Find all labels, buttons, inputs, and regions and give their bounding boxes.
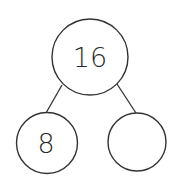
whole-value: 16	[73, 42, 107, 73]
connector-right	[117, 84, 136, 113]
connector-left	[46, 85, 62, 113]
whole-node: 16	[52, 19, 128, 95]
part-node-right[interactable]	[108, 113, 166, 171]
part-left-value: 8	[37, 128, 54, 159]
part-node-left: 8	[17, 113, 78, 174]
number-bond-diagram: 16 8	[0, 0, 173, 183]
